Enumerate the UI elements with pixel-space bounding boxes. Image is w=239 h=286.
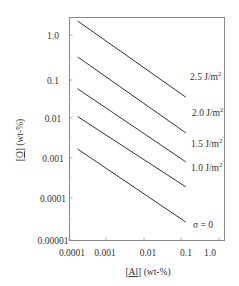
- y-axis-label: [O] (wt-%): [15, 119, 26, 162]
- y-tick-label: 0.1: [47, 76, 59, 86]
- series-label: 2.5 J/m2: [190, 70, 221, 82]
- x-tick-label: 0.0001: [59, 248, 85, 258]
- series-label: 2.0 J/m2: [192, 106, 223, 118]
- x-tick-label: 1.0: [204, 248, 216, 258]
- series-label: σ = 0: [193, 220, 213, 230]
- series-line: [78, 89, 186, 162]
- series-labels: 2.5 J/m22.0 J/m21.5 J/m21.0 J/m2σ = 0: [190, 70, 223, 230]
- series-line: [78, 57, 186, 133]
- y-tick-label: 0.00001: [38, 236, 69, 246]
- series-line: [78, 117, 186, 187]
- plot-frame: [70, 18, 225, 241]
- series-line: [78, 149, 186, 222]
- x-tick-label: 0.01: [140, 248, 157, 258]
- y-tick-label: 0.001: [42, 154, 64, 164]
- series-label: 1.0 J/m2: [191, 161, 222, 173]
- series-lines: [78, 21, 186, 222]
- y-tick-label: 0.0001: [40, 194, 66, 204]
- y-axis-ticks: 1.00.10.010.0010.00010.00001: [38, 31, 73, 246]
- x-tick-label: 0.1: [180, 248, 192, 258]
- series-label: 1.5 J/m2: [191, 137, 222, 149]
- chart: 1.00.10.010.0010.00010.00001 0.00010.001…: [0, 0, 239, 286]
- x-tick-label: 0.001: [94, 248, 116, 258]
- y-tick-label: 1.0: [47, 31, 59, 41]
- series-line: [78, 21, 186, 97]
- y-tick-label: 0.01: [45, 114, 62, 124]
- x-axis-label: [Al] (wt-%): [125, 267, 170, 278]
